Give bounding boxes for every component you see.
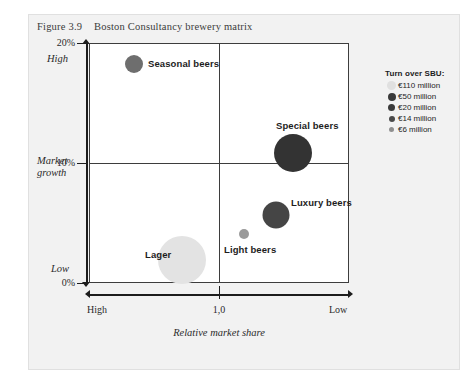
bubble-label-light-beers: Light beers — [224, 244, 276, 255]
legend-bubble-icon — [385, 127, 398, 132]
figure-caption: Figure 3.9 Boston Consultancy brewery ma… — [37, 21, 253, 32]
bubble-seasonal-beers[interactable] — [125, 55, 143, 73]
x-tick-label-center: 1,0 — [89, 304, 349, 315]
legend-item-label: €6 million — [398, 125, 432, 134]
figure-number: Figure 3.9 — [37, 21, 82, 32]
chart-legend: Turn over SBU: €110 million €50 million … — [385, 69, 457, 135]
y-tick-label-20: 20% — [43, 37, 75, 48]
bubble-label-luxury-beers: Luxury beers — [291, 197, 352, 208]
figure-frame: Figure 3.9 Boston Consultancy brewery ma… — [28, 14, 460, 370]
y-axis-line — [86, 43, 88, 283]
bubble-light-beers[interactable] — [239, 229, 249, 239]
legend-bubble-icon — [385, 93, 398, 101]
y-tick-mark-0 — [77, 283, 86, 284]
legend-item-label: €50 million — [398, 92, 436, 101]
x-tick-mark-center — [219, 286, 220, 299]
bubble-label-lager: Lager — [145, 249, 171, 260]
legend-item[interactable]: €20 million — [385, 102, 457, 113]
y-level-low: Low — [51, 263, 69, 274]
bubble-label-seasonal-beers: Seasonal beers — [148, 58, 219, 69]
legend-item-label: €110 million — [398, 81, 440, 90]
y-axis-title: Marketgrowth — [37, 155, 67, 179]
bubble-luxury-beers[interactable] — [263, 202, 290, 229]
y-tick-mark-10 — [77, 163, 86, 164]
x-axis-title: Relative market share — [89, 327, 349, 338]
x-tick-label-low: Low — [329, 304, 347, 315]
legend-title: Turn over SBU: — [385, 69, 457, 78]
legend-item[interactable]: €6 million — [385, 124, 457, 135]
figure-title: Boston Consultancy brewery matrix — [94, 21, 253, 32]
legend-bubble-icon — [385, 81, 398, 90]
x-axis-arrow-right — [348, 290, 353, 298]
legend-item-label: €20 million — [398, 103, 436, 112]
bubble-lager[interactable] — [158, 236, 206, 284]
x-axis — [85, 290, 353, 299]
quadrant-divider-horizontal — [90, 163, 348, 164]
legend-item-label: €14 million — [398, 114, 436, 123]
y-tick-mark-20 — [77, 43, 86, 44]
bubble-special-beers[interactable] — [274, 134, 312, 172]
legend-item[interactable]: €50 million — [385, 91, 457, 102]
y-level-high: High — [47, 53, 68, 64]
legend-item[interactable]: €14 million — [385, 113, 457, 124]
bubble-label-special-beers: Special beers — [276, 120, 339, 131]
legend-bubble-icon — [385, 104, 398, 111]
legend-bubble-icon — [385, 116, 398, 122]
legend-item[interactable]: €110 million — [385, 80, 457, 91]
y-tick-label-0: 0% — [43, 277, 75, 288]
plot-area: Seasonal beers Special beers Luxury beer… — [89, 43, 349, 283]
